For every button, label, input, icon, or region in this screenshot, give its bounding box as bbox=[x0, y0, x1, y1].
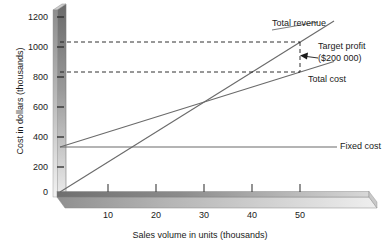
y-axis-title: Cost in dollars (thousands) bbox=[15, 31, 25, 171]
target-profit-label: Target profit bbox=[318, 41, 366, 52]
y-tick-label-800: 800 bbox=[14, 72, 48, 82]
y-tick-label-400: 400 bbox=[14, 132, 48, 142]
cvp-break-even-chart bbox=[0, 0, 383, 245]
target-profit-arrow bbox=[300, 53, 318, 60]
total-revenue-label: Total revenue bbox=[272, 18, 326, 29]
y-tick-label-600: 600 bbox=[14, 102, 48, 112]
x-axis-ticks bbox=[108, 184, 300, 192]
target-profit-amount: ($200 000) bbox=[318, 53, 362, 64]
y-tick-label-200: 200 bbox=[14, 162, 48, 172]
x-axis-title: Sales volume in units (thousands) bbox=[60, 230, 340, 240]
x-tick-label-20: 20 bbox=[145, 210, 167, 220]
data-lines bbox=[60, 21, 337, 192]
x-tick-label-10: 10 bbox=[97, 210, 119, 220]
total-cost-label: Total cost bbox=[308, 74, 346, 85]
total-cost-line bbox=[60, 62, 334, 148]
x-axis-3d-block bbox=[57, 192, 377, 209]
x-tick-label-50: 50 bbox=[289, 210, 311, 220]
x-tick-label-40: 40 bbox=[241, 210, 263, 220]
y-tick-label-1200: 1200 bbox=[14, 12, 48, 22]
chart-container: Cost in dollars (thousands) 1200 1000 80… bbox=[0, 0, 383, 245]
y-tick-label-1000: 1000 bbox=[14, 42, 48, 52]
fixed-cost-label: Fixed cost bbox=[340, 141, 381, 152]
total-revenue-line bbox=[60, 21, 334, 192]
reference-lines bbox=[60, 42, 300, 72]
x-tick-label-30: 30 bbox=[193, 210, 215, 220]
y-axis-3d-block bbox=[53, 4, 66, 197]
y-tick-label-0: 0 bbox=[14, 187, 48, 197]
